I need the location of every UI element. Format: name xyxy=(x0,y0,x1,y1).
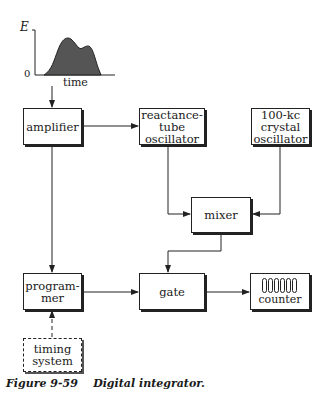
graph-origin-label: 0 xyxy=(24,68,30,79)
gate-label: gate xyxy=(159,286,185,298)
programmer-label-line2: mer xyxy=(41,292,64,304)
input-waveform-graph xyxy=(32,30,115,75)
programmer-block: program- mer xyxy=(23,273,82,310)
amplifier-label: amplifier xyxy=(26,121,78,133)
crystal-label-line3: oscillator xyxy=(253,133,307,145)
reactance-label-line3: oscillator xyxy=(145,133,199,145)
programmer-label-line1: program- xyxy=(25,280,79,292)
crystal-label-line1: 100-kc xyxy=(261,109,300,121)
arrow-mixer-to-gate xyxy=(168,234,221,272)
reactance-tube-oscillator-block: reactance- tube oscillator xyxy=(139,108,205,145)
figure-caption: Figure 9-59 Digital integrator. xyxy=(6,377,205,390)
caption-number: Figure 9-59 xyxy=(6,377,78,390)
timing-label-line2: system xyxy=(32,355,73,367)
amplifier-block: amplifier xyxy=(23,108,82,145)
gate-block: gate xyxy=(139,273,205,310)
waveform-shape xyxy=(44,38,101,75)
crystal-label-line2: crystal xyxy=(261,121,301,133)
reactance-label-line1: reactance- xyxy=(141,109,203,121)
mixer-block: mixer xyxy=(191,197,251,233)
timing-system-block: timing system xyxy=(23,338,82,372)
reactance-label-line2: tube xyxy=(159,121,185,133)
arrow-reactance-to-mixer xyxy=(168,146,190,214)
counter-label: counter xyxy=(258,294,301,305)
counter-block: counter xyxy=(250,273,310,310)
caption-title: Digital integrator. xyxy=(93,377,205,390)
graph-y-label: E xyxy=(20,20,29,34)
mixer-label: mixer xyxy=(204,209,237,221)
crystal-oscillator-block: 100-kc crystal oscillator xyxy=(251,108,310,145)
counter-digits-icon xyxy=(262,278,297,293)
arrow-crystal-to-mixer xyxy=(253,146,280,214)
graph-x-label: time xyxy=(63,76,88,89)
